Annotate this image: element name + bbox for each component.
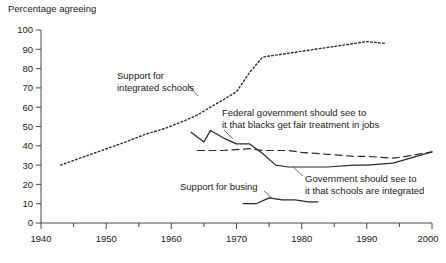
x-tick-label: 1990 [356, 233, 377, 244]
y-tick-label: 0 [28, 217, 33, 228]
annotation-line: Federal government should see to [222, 107, 366, 118]
x-tick-label: 1940 [30, 233, 51, 244]
y-tick-label: 70 [22, 82, 33, 93]
x-tick-label: 1960 [161, 233, 182, 244]
y-tick-label: 20 [22, 179, 33, 190]
leader-support-for-busing [264, 191, 272, 198]
y-tick-label: 60 [22, 102, 33, 113]
y-tick-label: 30 [22, 160, 33, 171]
annotation-line: Support for busing [180, 181, 258, 192]
leader-federal-government-jobs [224, 130, 233, 139]
y-tick-label: 40 [22, 140, 33, 151]
x-axis-ticks: 1940 1950 1960 1970 1980 1990 2000 [30, 223, 438, 244]
annotation-government-schools-integrated: Government should see to it that schools… [305, 173, 424, 196]
series-government-schools-integrated [191, 130, 432, 167]
y-axis-title: Percentage agreeing [8, 3, 96, 14]
y-tick-label: 100 [17, 24, 33, 35]
series-federal-government-jobs [198, 149, 433, 159]
y-tick-label: 50 [22, 121, 33, 132]
annotation-line: it that blacks get fair treatment in job… [222, 119, 380, 130]
x-tick-label: 2000 [417, 233, 438, 244]
annotation-line: it that schools are integrated [305, 185, 424, 196]
chart-page: Percentage agreeing 100 90 80 70 60 50 4… [0, 0, 446, 263]
y-tick-label: 10 [22, 198, 33, 209]
x-tick-label: 1970 [226, 233, 247, 244]
y-tick-label: 90 [22, 44, 33, 55]
y-axis-ticks: 100 90 80 70 60 50 40 30 20 10 0 [17, 24, 41, 228]
y-tick-label: 80 [22, 63, 33, 74]
series-support-integrated-schools [61, 42, 387, 166]
annotation-support-integrated-schools: Support for integrated schools [117, 70, 194, 93]
annotation-line: Government should see to [305, 173, 416, 184]
leader-government-schools-integrated [293, 167, 303, 176]
x-tick-label: 1980 [291, 233, 312, 244]
annotation-federal-government-jobs: Federal government should see to it that… [222, 107, 380, 130]
line-chart: Percentage agreeing 100 90 80 70 60 50 4… [0, 0, 446, 263]
annotation-line: integrated schools [117, 82, 194, 93]
series-support-for-busing [243, 198, 318, 204]
annotation-line: Support for [117, 70, 164, 81]
annotation-support-for-busing: Support for busing [180, 181, 258, 192]
x-tick-label: 1950 [96, 233, 117, 244]
